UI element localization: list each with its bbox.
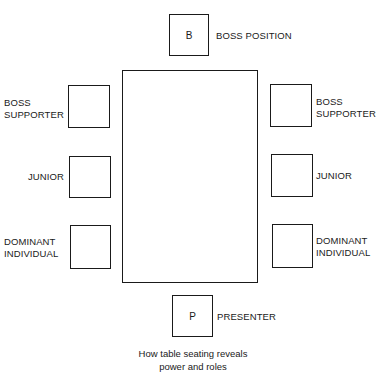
figure-caption: How table seating reveals power and role… (3, 348, 380, 373)
presenter-seat: P (172, 295, 213, 337)
right-dominant-individual-seat (272, 224, 313, 268)
right-junior-label: JUNIOR (316, 170, 352, 182)
figure-caption-line2: power and roles (3, 361, 380, 373)
left-boss-supporter-seat (68, 85, 110, 128)
right-boss-supporter-label: BOSS SUPPORTER (316, 96, 376, 120)
presenter-label: PRESENTER (217, 311, 276, 323)
right-boss-supporter-label-line1: BOSS (316, 96, 376, 108)
right-boss-supporter-label-line2: SUPPORTER (316, 108, 376, 120)
right-dominant-label-line1: DOMINANT (316, 235, 370, 247)
left-boss-supporter-label: BOSS SUPPORTER (4, 97, 64, 121)
right-dominant-individual-label: DOMINANT INDIVIDUAL (316, 235, 370, 259)
boss-seat: B (169, 14, 209, 56)
right-boss-supporter-seat (270, 84, 312, 127)
left-junior-label: JUNIOR (28, 171, 64, 183)
boss-position-label: BOSS POSITION (216, 30, 292, 42)
left-dominant-individual-label: DOMINANT INDIVIDUAL (4, 236, 58, 260)
boss-seat-letter: B (170, 30, 208, 41)
left-boss-supporter-label-line1: BOSS (4, 97, 64, 109)
left-boss-supporter-label-line2: SUPPORTER (4, 109, 64, 121)
figure-caption-line1: How table seating reveals (3, 348, 380, 360)
right-junior-seat (271, 154, 313, 197)
left-dominant-label-line1: DOMINANT (4, 236, 58, 248)
left-dominant-label-line2: INDIVIDUAL (4, 248, 58, 260)
presenter-seat-letter: P (173, 311, 212, 322)
right-dominant-label-line2: INDIVIDUAL (316, 247, 370, 259)
left-junior-seat (69, 156, 111, 198)
conference-table (122, 70, 258, 283)
left-dominant-individual-seat (70, 225, 111, 269)
